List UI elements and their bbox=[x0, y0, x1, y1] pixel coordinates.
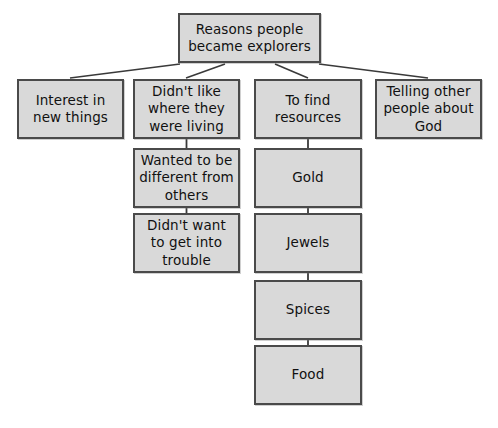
node-didntlike-label: Didn't like where they were living bbox=[144, 83, 229, 135]
node-didnt-like-where-living[interactable]: Didn't like where they were living bbox=[133, 79, 240, 139]
node-to-find-resources[interactable]: To find resources bbox=[254, 79, 362, 139]
node-spices[interactable]: Spices bbox=[254, 280, 362, 340]
node-telling-label: Telling other people about God bbox=[379, 83, 477, 135]
node-food-label: Food bbox=[288, 366, 329, 383]
node-spices-label: Spices bbox=[282, 301, 334, 318]
node-different-label: Wanted to be different from others bbox=[135, 152, 238, 204]
node-trouble-label: Didn't want to get into trouble bbox=[143, 217, 230, 269]
node-jewels-label: Jewels bbox=[282, 234, 333, 251]
node-jewels[interactable]: Jewels bbox=[254, 213, 362, 273]
connector-root-to-didntlike bbox=[186, 64, 225, 78]
node-gold[interactable]: Gold bbox=[254, 148, 362, 208]
node-didnt-want-trouble[interactable]: Didn't want to get into trouble bbox=[133, 213, 240, 273]
node-interest-in-new-things[interactable]: Interest in new things bbox=[17, 79, 124, 139]
node-telling-people-about-god[interactable]: Telling other people about God bbox=[375, 79, 482, 139]
connector-root-to-telling bbox=[319, 64, 428, 78]
connector-root-to-interest bbox=[70, 64, 180, 78]
node-root[interactable]: Reasons people became explorers bbox=[178, 13, 321, 63]
diagram-canvas: Reasons people became explorers Interest… bbox=[0, 0, 498, 428]
connector-root-to-resources bbox=[275, 64, 308, 78]
connector-layer bbox=[0, 0, 498, 428]
node-resources-label: To find resources bbox=[271, 92, 345, 127]
node-gold-label: Gold bbox=[288, 169, 327, 186]
node-food[interactable]: Food bbox=[254, 345, 362, 405]
node-interest-label: Interest in new things bbox=[29, 92, 112, 127]
node-wanted-to-be-different[interactable]: Wanted to be different from others bbox=[133, 148, 240, 208]
node-root-label: Reasons people became explorers bbox=[184, 21, 315, 56]
